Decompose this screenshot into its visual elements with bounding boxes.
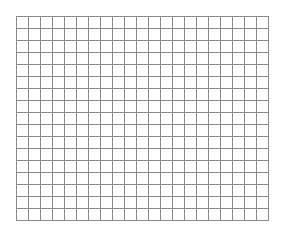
grid-paper: [16, 16, 269, 221]
grid-lines: [16, 16, 269, 221]
